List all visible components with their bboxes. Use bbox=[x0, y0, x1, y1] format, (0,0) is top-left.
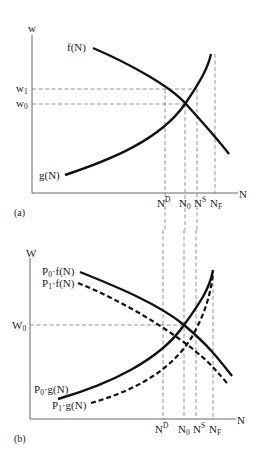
P0-g-of-N-label: P0·g(N) bbox=[34, 383, 69, 397]
P1-g-of-N-label: P1·g(N) bbox=[52, 399, 87, 413]
panel-a: w N w1 w0 ND N0 NS NF f(N) g(N) (a) bbox=[14, 22, 247, 230]
P1-f-of-N-curve bbox=[78, 283, 227, 383]
panel-b: W N W0 ND N0 NS NF P0·f(N) P1·f(N) P0·g(… bbox=[12, 230, 245, 445]
g-of-N-curve bbox=[65, 54, 211, 175]
panel-a-label: (a) bbox=[14, 207, 25, 219]
W0-label: W0 bbox=[12, 319, 26, 333]
w0-label: w0 bbox=[16, 97, 28, 111]
NS-label-b: NS bbox=[193, 421, 205, 435]
w1-label: w1 bbox=[16, 82, 28, 96]
N0-label-b: N0 bbox=[178, 423, 190, 437]
P1-f-of-N-label: P1·f(N) bbox=[42, 277, 75, 291]
ND-label-b: ND bbox=[155, 421, 169, 435]
NS-label-a: NS bbox=[194, 195, 206, 209]
panel-a-y-axis-label: w bbox=[28, 22, 36, 34]
labor-market-diagram: w N w1 w0 ND N0 NS NF f(N) g(N) (a) bbox=[0, 0, 263, 461]
P0-g-of-N-curve bbox=[58, 270, 213, 399]
NF-label-a: NF bbox=[210, 197, 222, 211]
panel-a-x-axis-label: N bbox=[239, 188, 247, 200]
panel-b-y-axis-label: W bbox=[26, 247, 37, 259]
f-of-N-label: f(N) bbox=[67, 41, 86, 54]
g-of-N-label: g(N) bbox=[39, 169, 60, 182]
panel-b-label: (b) bbox=[14, 433, 26, 445]
P1-g-of-N-curve bbox=[91, 272, 213, 403]
panel-b-x-axis-label: N bbox=[237, 414, 245, 426]
ND-label-a: ND bbox=[157, 195, 171, 209]
NF-label-b: NF bbox=[209, 423, 221, 437]
N0-label-a: N0 bbox=[179, 197, 191, 211]
